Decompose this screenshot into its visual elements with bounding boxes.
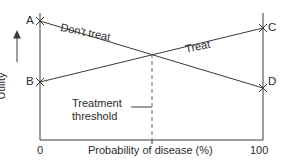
point-label-a: A — [26, 14, 34, 26]
chart-canvas — [0, 0, 286, 166]
point-label-c: C — [268, 21, 276, 33]
treatment-threshold-annotation: Treatment threshold — [72, 97, 132, 123]
x-tick-label-0: 0 — [37, 144, 43, 156]
point-label-d: D — [268, 75, 276, 87]
point-label-b: B — [26, 75, 34, 87]
utility-threshold-chart: A B C D Don't treat Treat Treatment thre… — [0, 0, 286, 166]
y-axis-title: Utility — [0, 73, 7, 100]
utility-up-arrow-icon — [13, 30, 21, 62]
treatment-threshold-line-2: threshold — [72, 110, 117, 122]
x-tick-label-100: 100 — [250, 144, 268, 156]
x-axis-title: Probability of disease (%) — [88, 144, 213, 156]
treatment-threshold-line-1: Treatment — [72, 97, 122, 109]
